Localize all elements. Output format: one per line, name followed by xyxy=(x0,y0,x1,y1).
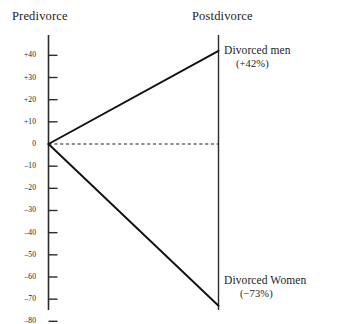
axis-tick-label: 0 xyxy=(12,140,36,148)
series-line-divorced-women xyxy=(49,144,219,306)
axis-tick-marks xyxy=(49,55,58,321)
axis-tick-label: +20 xyxy=(12,96,36,104)
axis-tick-label: –40 xyxy=(12,229,36,237)
axis-tick-label: –80 xyxy=(12,317,36,324)
axis-tick-label: +10 xyxy=(12,118,36,126)
series-line-divorced-men xyxy=(49,51,219,144)
axis-tick-label: –70 xyxy=(12,295,36,303)
divorced-men-value: (+42%) xyxy=(236,58,269,71)
divorced-women-label: Divorced Women xyxy=(224,274,306,288)
divorced-men-label: Divorced men xyxy=(224,44,291,58)
divorced-women-value: (−73%) xyxy=(240,288,273,301)
axis-tick-label: –20 xyxy=(12,184,36,192)
axis-tick-label: –30 xyxy=(12,206,36,214)
axis-tick-label: +30 xyxy=(12,74,36,82)
slope-chart: Predivorce Postdivorce +40+30+20+100–10–… xyxy=(0,0,337,324)
axis-tick-label: –10 xyxy=(12,162,36,170)
axis-tick-label: –50 xyxy=(12,251,36,259)
axis-tick-label: –60 xyxy=(12,273,36,281)
axis-tick-label: +40 xyxy=(12,51,36,59)
